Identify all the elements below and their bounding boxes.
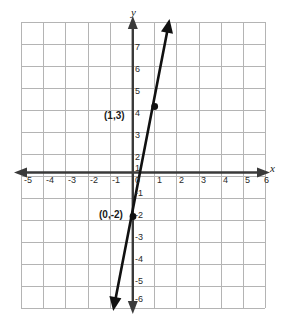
x-tick-label--5: -5 — [24, 175, 32, 185]
x-tick-label-6: 6 — [264, 175, 269, 185]
x-tick-label-3: 3 — [201, 175, 206, 185]
y-tick-label--1: -1 — [135, 188, 143, 198]
x-tick-label-5: 5 — [245, 175, 250, 185]
grid-lines — [21, 22, 265, 309]
x-tick-label--2: -2 — [90, 175, 98, 185]
y-tick-label-3: 3 — [135, 130, 140, 140]
y-tick-label--2: -2 — [135, 210, 143, 220]
y-tick-label-6: 6 — [135, 64, 140, 74]
y-tick-label--4: -4 — [135, 254, 143, 264]
y-tick-label--3: -3 — [135, 232, 143, 242]
coordinate-plane-graph: y x -5 -4 -3 -2 -1 0 1 2 3 4 5 6 7 6 5 4… — [0, 0, 283, 324]
y-tick-label-4: 4 — [135, 108, 140, 118]
x-tick-label--4: -4 — [46, 175, 54, 185]
y-tick-label-1: 1 — [135, 163, 140, 173]
plotted-line — [109, 19, 173, 311]
y-tick-label-2: 2 — [135, 152, 140, 162]
point-label-1-3: (1,3) — [104, 110, 125, 121]
x-tick-label--1: -1 — [112, 175, 120, 185]
point-label-0-neg2: (0,-2) — [99, 209, 123, 220]
x-tick-label-0: 0 — [135, 175, 140, 185]
line-upper-arrow — [161, 19, 173, 34]
x-tick-label-4: 4 — [223, 175, 228, 185]
point-marker-1-3 — [151, 103, 158, 110]
x-tick-label-2: 2 — [179, 175, 184, 185]
y-tick-label-5: 5 — [135, 86, 140, 96]
y-tick-label--6: -6 — [135, 294, 143, 304]
y-tick-label-7: 7 — [135, 42, 140, 52]
x-axis-label: x — [270, 163, 275, 174]
x-tick-label-1: 1 — [157, 175, 162, 185]
y-tick-label--5: -5 — [135, 276, 143, 286]
y-axis-label: y — [131, 7, 136, 18]
x-tick-label--3: -3 — [68, 175, 76, 185]
